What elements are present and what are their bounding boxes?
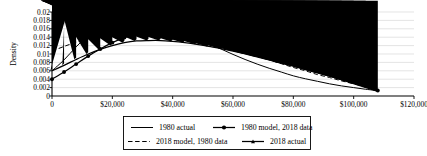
y-tick-label: 0.02 bbox=[37, 8, 50, 17]
y-tick-label: 0.016 bbox=[33, 24, 50, 33]
data-point-marker bbox=[74, 62, 78, 66]
x-tick-label: $20,000 bbox=[100, 100, 124, 109]
y-tick-label: 0.014 bbox=[33, 33, 50, 42]
x-tick-label: $100,000 bbox=[340, 100, 368, 109]
y-tick-label: 0.018 bbox=[33, 16, 50, 25]
x-tick-label: $60,000 bbox=[221, 100, 245, 109]
legend-swatch-marker bbox=[222, 125, 226, 129]
x-tick-label: $80,000 bbox=[281, 100, 305, 109]
y-tick-label: 0.008 bbox=[33, 58, 50, 67]
chart-canvas: 00.0020.0040.0060.0080.010.0120.0140.016… bbox=[0, 0, 427, 156]
y-axis-tick-labels: 00.0020.0040.0060.0080.010.0120.0140.016… bbox=[33, 8, 50, 101]
data-point-marker bbox=[50, 77, 54, 81]
legend-label: 1980 model, 2018 data bbox=[241, 123, 313, 132]
legend-label: 2018 model, 1980 data bbox=[156, 137, 228, 146]
density-chart: 00.0020.0040.0060.0080.010.0120.0140.016… bbox=[0, 0, 427, 156]
y-tick-label: 0.012 bbox=[33, 41, 50, 50]
y-tick-label: 0.004 bbox=[33, 75, 50, 84]
y-axis-title: Density bbox=[9, 42, 18, 66]
data-point-marker bbox=[62, 70, 66, 74]
legend-label: 2018 actual bbox=[270, 137, 307, 146]
y-tick-label: 0.01 bbox=[37, 50, 50, 59]
x-tick-label: 0 bbox=[50, 100, 54, 109]
x-axis-tick-labels: 0$20,000$40,000$60,000$80,000$100,000$12… bbox=[50, 100, 427, 109]
legend-label: 1980 actual bbox=[159, 123, 196, 132]
x-tick-label: $120,000 bbox=[400, 100, 427, 109]
y-tick-label: 0.006 bbox=[33, 66, 50, 75]
legend: 1980 actual1980 model, 2018 data2018 mod… bbox=[124, 117, 313, 150]
x-tick-label: $40,000 bbox=[161, 100, 185, 109]
y-tick-label: 0.002 bbox=[33, 83, 50, 92]
